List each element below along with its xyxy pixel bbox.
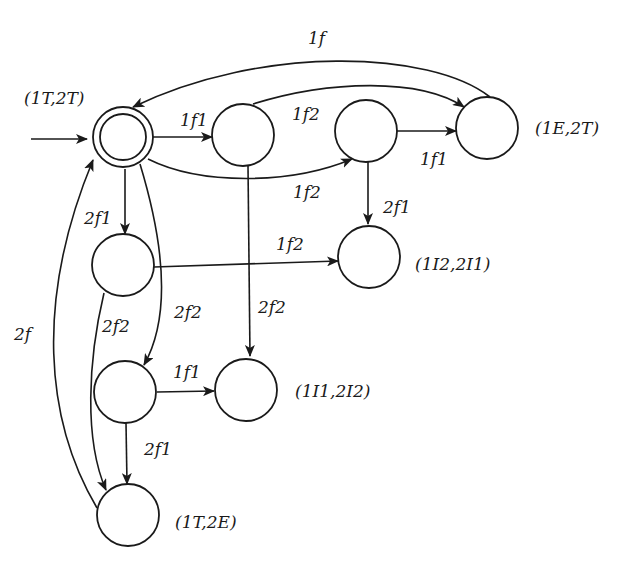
state-label-initial: (1T,2T): [24, 88, 84, 108]
edge-d-i1i2: [157, 391, 214, 392]
state-initial[interactable]: [93, 107, 153, 167]
edge-label-init-a: 1f1: [180, 110, 208, 130]
edge-label-init-c: 2f1: [83, 208, 112, 228]
state-d[interactable]: [94, 361, 156, 423]
edge-c-i2i1: [154, 261, 338, 267]
state-label-t-e: (1T,2E): [175, 512, 237, 532]
state-a[interactable]: [212, 104, 274, 166]
edge-label-b-i2i1: 2f1: [382, 197, 411, 217]
edge-et-init: [133, 61, 490, 107]
state-e-t[interactable]: [456, 97, 518, 159]
edge-label-c-i2i1: 1f2: [276, 234, 304, 254]
edge-label-init-b: 1f2: [293, 182, 321, 202]
edge-label-c-te: 2f2: [101, 316, 130, 336]
edge-label-et-init: 1f: [308, 28, 328, 48]
edge-label-d-te: 2f1: [143, 439, 172, 459]
state-i1-i2[interactable]: [215, 359, 277, 421]
edge-label-d-i1i2: 1f1: [173, 362, 201, 382]
state-label-i1-i2: (1I1,2I2): [295, 381, 370, 401]
state-c[interactable]: [92, 234, 154, 296]
edge-label-init-d: 2f2: [173, 302, 202, 322]
edge-label-b-et: 1f1: [420, 149, 448, 169]
states: [92, 97, 518, 546]
state-label-e-t: (1E,2T): [535, 118, 599, 138]
edge-label-a-et: 1f2: [292, 104, 320, 124]
state-label-i2-i1: (1I2,2I1): [415, 254, 490, 274]
state-t-e[interactable]: [97, 484, 159, 546]
state-i2-i1[interactable]: [338, 226, 400, 288]
state-b[interactable]: [335, 100, 397, 162]
edge-a-i1i2: [248, 166, 250, 356]
edge-d-te: [126, 423, 127, 484]
edge-label-te-init: 2f: [13, 324, 34, 344]
state-diagram: (1T,2T) (1E,2T) (1I2,2I1) (1I1,2I2) (1T,…: [0, 0, 630, 562]
edge-label-a-i1i2: 2f2: [257, 297, 286, 317]
